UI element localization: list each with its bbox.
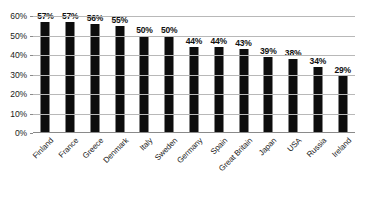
bar[interactable]	[41, 22, 50, 133]
bar[interactable]	[313, 67, 322, 133]
y-tick-mark	[30, 36, 33, 37]
bar-value-label: 38%	[285, 48, 301, 58]
x-axis-line	[33, 132, 355, 133]
y-axis-tick-label: 0%	[15, 128, 27, 138]
x-axis-category-label: Finland	[31, 136, 55, 160]
plot-area: 57%57%56%55%50%50%44%44%43%39%38%34%29%	[33, 16, 355, 133]
x-axis-category-label: Russia	[305, 136, 328, 159]
bar[interactable]	[289, 59, 298, 133]
bar[interactable]	[115, 26, 124, 133]
bar[interactable]	[90, 24, 99, 133]
y-tick-mark	[30, 75, 33, 76]
y-axis-tick-label: 50%	[10, 31, 27, 41]
y-axis: 60%50%40%30%20%10%0%	[0, 0, 31, 206]
x-axis: FinlandFranceGreeceDenmarkItalySwedenGer…	[33, 134, 355, 206]
bar[interactable]	[165, 36, 174, 134]
y-axis-tick-label: 60%	[10, 11, 27, 21]
gridline	[33, 114, 355, 115]
x-axis-category-label: Ireland	[330, 136, 353, 159]
y-axis-tick-label: 30%	[10, 70, 27, 80]
bar[interactable]	[140, 36, 149, 134]
gridline	[33, 16, 355, 17]
x-axis-category-label: France	[57, 136, 81, 160]
y-tick-mark	[30, 94, 33, 95]
gridline	[33, 94, 355, 95]
bar[interactable]	[338, 76, 347, 133]
x-axis-category-label: Italy	[138, 136, 154, 152]
bar-value-label: 43%	[235, 38, 251, 48]
gridline	[33, 36, 355, 37]
bar-value-label: 44%	[186, 36, 202, 46]
bar-value-label: 56%	[87, 13, 103, 23]
bar-value-label: 44%	[211, 36, 227, 46]
bar[interactable]	[239, 49, 248, 133]
x-axis-category-label: Spain	[209, 136, 229, 156]
x-axis-category-label: USA	[286, 136, 304, 154]
x-axis-category-label: Japan	[257, 136, 278, 157]
bar-value-label: 50%	[161, 25, 177, 35]
x-axis-category-label: Denmark	[101, 136, 130, 165]
bar[interactable]	[66, 22, 75, 133]
y-tick-mark	[30, 55, 33, 56]
bar-value-label: 50%	[136, 25, 152, 35]
bar[interactable]	[189, 47, 198, 133]
gridline	[33, 75, 355, 76]
bar[interactable]	[214, 47, 223, 133]
y-axis-tick-label: 40%	[10, 50, 27, 60]
y-axis-tick-label: 20%	[10, 89, 27, 99]
y-tick-mark	[30, 114, 33, 115]
x-axis-category-label: Germany	[175, 136, 204, 165]
bar-chart: 60%50%40%30%20%10%0% 57%57%56%55%50%50%4…	[0, 0, 370, 206]
gridline	[33, 55, 355, 56]
y-tick-mark	[30, 16, 33, 17]
y-axis-tick-label: 10%	[10, 109, 27, 119]
bar-value-label: 34%	[310, 56, 326, 66]
